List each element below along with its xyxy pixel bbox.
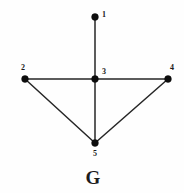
graph-node-3 [92, 76, 99, 83]
graph-node-label-3: 3 [102, 67, 106, 76]
graph-node-1 [92, 14, 99, 21]
graph-caption: G [86, 167, 101, 188]
graph-node-2 [22, 76, 29, 83]
graph-edge-2-5 [25, 79, 95, 143]
graph-node-label-2: 2 [21, 63, 25, 72]
graph-diagram-canvas: 12345 G [0, 0, 184, 193]
graph-node-label-4: 4 [170, 63, 174, 72]
graph-figure: 12345 G [0, 0, 184, 193]
graph-node-label-1: 1 [102, 10, 106, 19]
node-layer [22, 14, 172, 147]
graph-node-label-5: 5 [93, 149, 97, 158]
vertex-label-layer: 12345 [21, 10, 174, 158]
graph-edge-4-5 [95, 79, 168, 143]
graph-node-4 [165, 76, 172, 83]
graph-node-5 [92, 140, 99, 147]
